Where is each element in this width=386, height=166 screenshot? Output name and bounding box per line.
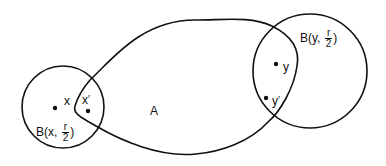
point-y-dot — [274, 62, 278, 66]
point-y-letter: y — [283, 60, 289, 74]
ball-x-label-prefix: B(x, — [36, 125, 57, 139]
prime-mark: ′ — [278, 95, 280, 106]
point-x-prime-dot — [86, 109, 90, 113]
point-y-label: y — [283, 61, 289, 73]
ball-x-label: B(x, r 2 ) — [36, 122, 74, 143]
point-y-prime-dot — [264, 96, 268, 100]
ball-y-label-suffix: ) — [333, 31, 337, 45]
ball-x-label-suffix: ) — [70, 125, 74, 139]
ball-y-label-prefix: B(y, — [300, 31, 320, 45]
point-x-label: x — [64, 95, 70, 107]
prime-mark: ′ — [88, 94, 90, 105]
ball-y-label: B(y, r 2 ) — [300, 28, 337, 49]
point-x-dot — [53, 106, 57, 110]
region-a-outline — [75, 19, 298, 154]
diagram-canvas: x x′ y y′ A B(x, r 2 ) B(y, r 2 ) — [0, 0, 386, 166]
point-y-prime-label: y′ — [272, 95, 280, 107]
ball-y-radius-fraction: r 2 — [325, 28, 333, 49]
region-a-label: A — [150, 105, 158, 117]
fraction-denominator: 2 — [62, 133, 70, 143]
ball-x-radius-fraction: r 2 — [62, 122, 70, 143]
point-x-prime-label: x′ — [82, 94, 90, 106]
point-x-letter: x — [64, 94, 70, 108]
fraction-denominator: 2 — [325, 39, 333, 49]
